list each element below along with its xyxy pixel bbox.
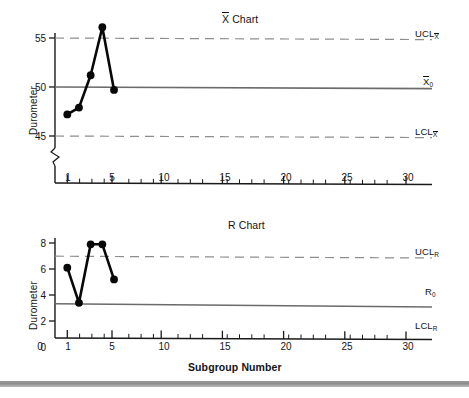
page-bottom-rule: [0, 381, 469, 387]
rchart-center-line: [55, 304, 432, 307]
data-point: [63, 264, 71, 272]
data-point: [110, 276, 118, 284]
data-point: [87, 240, 95, 248]
rchart-data-line: [67, 244, 114, 302]
data-point: [75, 299, 83, 307]
rchart-ucl-line: [55, 256, 432, 258]
data-point: [98, 240, 106, 248]
rchart-plot-svg: [0, 0, 469, 398]
figure-canvas: X Chart Durometer 55 50 45 1 5 10 15 20 …: [0, 0, 469, 398]
